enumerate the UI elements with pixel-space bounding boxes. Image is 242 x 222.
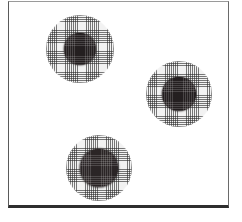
specimen-plate-figure [0, 0, 242, 222]
colony-core-upper-left [64, 33, 96, 65]
colony-core-middle-right [162, 77, 196, 111]
colony-halo-lower-left [66, 135, 132, 201]
colony-halo-upper-left [46, 15, 114, 83]
plate-frame-border [8, 1, 229, 208]
colony-core-lower-left [80, 149, 118, 187]
plate-field [9, 2, 228, 205]
colony-halo-middle-right [146, 61, 212, 127]
